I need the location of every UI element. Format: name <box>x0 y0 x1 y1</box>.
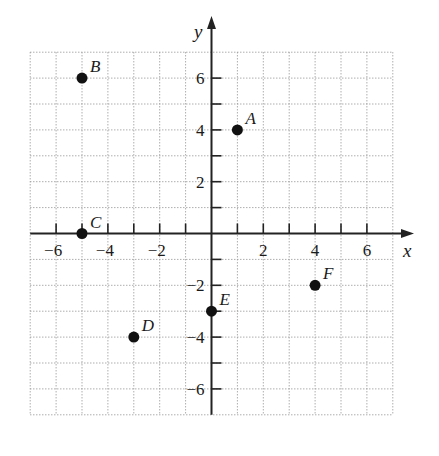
y-axis-arrow-icon <box>207 16 216 29</box>
point-e <box>206 306 217 317</box>
x-tick-label: 6 <box>363 241 372 260</box>
point-b <box>77 73 88 84</box>
point-label-a: A <box>244 109 256 128</box>
point-a <box>232 124 243 135</box>
x-tick-label: −4 <box>96 241 115 260</box>
point-c <box>77 228 88 239</box>
y-tick-label: −6 <box>186 380 204 399</box>
axes <box>30 16 414 415</box>
y-axis-label: y <box>192 21 203 42</box>
y-tick-label: 4 <box>196 121 205 140</box>
point-label-f: F <box>322 264 334 283</box>
point-label-d: D <box>141 316 155 335</box>
x-tick-label: −6 <box>44 241 62 260</box>
x-tick-label: 4 <box>311 241 320 260</box>
point-f <box>310 280 321 291</box>
data-points: ABCDEF <box>77 57 335 343</box>
point-label-e: E <box>219 290 231 309</box>
x-tick-label: −2 <box>148 241 166 260</box>
point-label-c: C <box>90 213 102 232</box>
y-tick-label: 6 <box>196 69 205 88</box>
coordinate-plane: −6−4−2246642−2−4−6 ABCDEF x y <box>0 0 439 456</box>
x-tick-label: 2 <box>259 241 268 260</box>
point-d <box>128 332 139 343</box>
x-axis-label: x <box>402 240 412 261</box>
y-tick-label: 2 <box>196 173 205 192</box>
x-axis-arrow-icon <box>401 229 414 238</box>
y-tick-label: −4 <box>186 328 205 347</box>
y-tick-label: −2 <box>186 276 204 295</box>
point-label-b: B <box>90 57 101 76</box>
